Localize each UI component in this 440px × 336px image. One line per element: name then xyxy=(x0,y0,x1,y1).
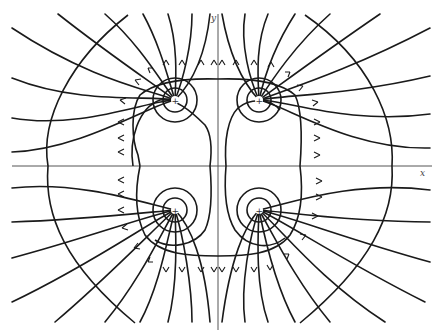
field-lines-q2 xyxy=(222,14,430,148)
charge-sign: + xyxy=(172,206,180,216)
field-lines-q4 xyxy=(222,188,430,322)
charge-q4: + xyxy=(255,206,263,216)
charge-sign: + xyxy=(172,96,180,106)
charges: + + + + xyxy=(171,96,263,216)
charge-q2: + xyxy=(255,96,263,106)
field-line-diagram: y x xyxy=(0,0,440,336)
charge-sign: + xyxy=(256,206,264,216)
y-axis-label: y xyxy=(210,13,217,23)
outer-equipotential xyxy=(47,15,393,323)
charge-q1: + xyxy=(171,96,179,106)
charge-sign: + xyxy=(256,96,264,106)
x-axis-label: x xyxy=(420,168,425,178)
field-lines-q1 xyxy=(12,14,210,152)
charge-q3: + xyxy=(171,206,179,216)
